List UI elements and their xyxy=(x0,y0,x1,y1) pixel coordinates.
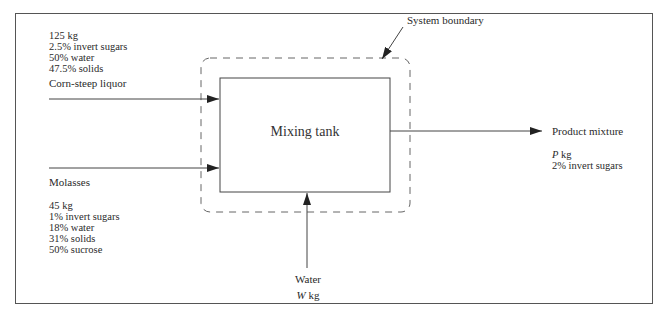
system-boundary-label: System boundary xyxy=(407,15,484,26)
water-unit: kg xyxy=(308,289,319,301)
corn-steep-water: 50% water xyxy=(49,52,127,63)
corn-steep-details: 125 kg 2.5% invert sugars 50% water 47.5… xyxy=(49,30,127,74)
product-var: P xyxy=(552,149,558,160)
molasses-solids: 31% solids xyxy=(49,233,120,244)
product-unit: kg xyxy=(561,149,572,160)
molasses-details: 45 kg 1% invert sugars 18% water 31% sol… xyxy=(49,200,120,255)
mixing-tank-label: Mixing tank xyxy=(220,124,390,140)
molasses-mass: 45 kg xyxy=(49,200,120,211)
corn-steep-label: Corn-steep liquor xyxy=(49,78,126,89)
boundary-pointer-arrow xyxy=(382,27,403,59)
water-amount: W kg xyxy=(288,290,328,301)
molasses-water: 18% water xyxy=(49,222,120,233)
molasses-sucrose: 50% sucrose xyxy=(49,244,120,255)
molasses-invert: 1% invert sugars xyxy=(49,211,120,222)
water-label: Water xyxy=(288,274,328,285)
corn-steep-solids: 47.5% solids xyxy=(49,63,127,74)
product-label: Product mixture xyxy=(552,126,623,137)
product-amount: P kg xyxy=(552,149,623,160)
water-var: W xyxy=(297,289,306,301)
molasses-label: Molasses xyxy=(49,177,90,188)
corn-steep-invert: 2.5% invert sugars xyxy=(49,41,127,52)
corn-steep-mass: 125 kg xyxy=(49,30,127,41)
product-invert: 2% invert sugars xyxy=(552,160,623,171)
product-details: P kg 2% invert sugars xyxy=(552,149,623,171)
